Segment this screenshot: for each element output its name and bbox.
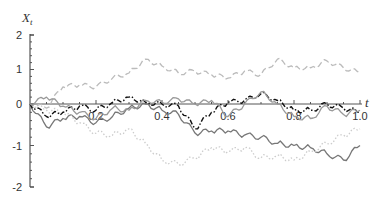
x-tick-label: 1.0 [352,110,367,122]
y-axis-title: Xt [21,10,33,27]
series-line-path-1 [30,58,360,108]
y-tick-label: 1 [16,63,22,75]
x-axis-title: t [365,95,369,110]
x-tick-label: 0.4 [154,110,169,122]
x-tick-label: 0.2 [88,110,103,122]
y-tick-label: -2 [12,181,22,193]
y-tick-label: -1 [12,140,22,152]
brownian-paths-chart: 2 1 0 -1 -2 0.2 0.4 0.6 0.8 1.0 Xt t [0,0,385,198]
y-tick-label: 0 [16,98,22,110]
y-tick-label: 2 [16,29,22,41]
series-layer [30,58,360,166]
series-line-path-4 [30,92,360,128]
series-line-path-3 [30,104,360,166]
